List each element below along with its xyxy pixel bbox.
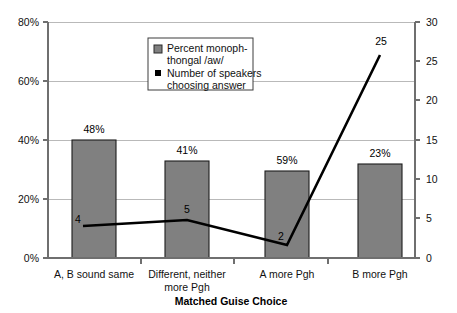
bar-a-b-sound-same[interactable]: [72, 140, 116, 258]
right-tick-label-5: 5: [426, 212, 432, 224]
legend-swatch-bar-icon: [154, 45, 162, 53]
left-tick-label-20: 20%: [18, 193, 39, 205]
chart-container: 80% 60% 40% 20% 0% 30 25 20 15 10 5 0 48…: [0, 0, 457, 313]
line-value-a-more-pgh: 2: [278, 230, 284, 242]
legend-label-line-line2: choosing answer: [167, 79, 246, 91]
bar-value-b-more-pgh: 23%: [369, 147, 390, 159]
category-label-a-b-sound-same: A, B sound same: [54, 268, 134, 280]
right-tick-label-20: 20: [426, 94, 438, 106]
bar-b-more-pgh[interactable]: [358, 164, 402, 258]
bar-value-different-neither-more-pgh: 41%: [176, 144, 197, 156]
right-tick-label-10: 10: [426, 173, 438, 185]
category-label-a-more-pgh: A more Pgh: [260, 268, 315, 280]
category-label-different-neither-more-pgh-line1: Different, neither: [148, 268, 226, 280]
legend-label-bar-line1: Percent monoph-: [167, 42, 248, 54]
left-tick-label-60: 60%: [18, 75, 39, 87]
left-tick-label-40: 40%: [18, 134, 39, 146]
right-tick-label-0: 0: [426, 252, 432, 264]
right-tick-label-30: 30: [426, 16, 438, 28]
left-tick-label-80: 80%: [18, 16, 39, 28]
legend-swatch-line-icon: [155, 70, 161, 76]
monophthongal-aw-combo-chart: 80% 60% 40% 20% 0% 30 25 20 15 10 5 0 48…: [0, 0, 457, 313]
legend-label-bar-line2: thongal /aw/: [167, 54, 224, 66]
x-axis-title: Matched Guise Choice: [175, 295, 288, 307]
line-value-different-neither-more-pgh: 5: [184, 203, 190, 215]
bar-value-a-more-pgh: 59%: [276, 154, 297, 166]
chart-legend: Percent monoph- thongal /aw/ Number of s…: [148, 38, 262, 91]
category-label-different-neither-more-pgh-line2: more Pgh: [164, 281, 210, 293]
legend-label-line-line1: Number of speakers: [167, 67, 262, 79]
line-value-b-more-pgh: 25: [375, 35, 387, 47]
left-tick-label-0: 0%: [24, 252, 39, 264]
right-tick-label-15: 15: [426, 134, 438, 146]
right-tick-label-25: 25: [426, 55, 438, 67]
bar-value-a-b-sound-same: 48%: [83, 123, 104, 135]
category-label-b-more-pgh: B more Pgh: [352, 268, 408, 280]
line-value-a-b-sound-same: 4: [75, 213, 81, 225]
